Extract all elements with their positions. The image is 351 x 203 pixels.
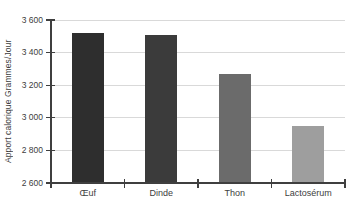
plot-area: 2 6002 8003 0003 2003 4003 600ŒufDindeTh… <box>0 0 351 203</box>
calorie-bar-chart: Apport calorique Grammes/Jour 2 6002 800… <box>0 0 351 203</box>
x-category-label: Lactosérum <box>272 188 344 198</box>
bar <box>292 126 324 183</box>
x-category-label: Œuf <box>52 188 124 198</box>
bar <box>219 74 251 183</box>
x-category-label: Thon <box>199 188 271 198</box>
x-category-label: Dinde <box>125 188 197 198</box>
x-axis-line <box>50 182 346 184</box>
y-axis-line <box>50 19 52 184</box>
y-tick-label: 2 600 <box>5 178 43 189</box>
bar <box>145 35 177 183</box>
gridline <box>51 20 345 21</box>
y-tick-label: 3 400 <box>5 47 43 58</box>
y-tick-label: 3 000 <box>5 112 43 123</box>
bar <box>72 33 104 183</box>
y-tick-label: 2 800 <box>5 145 43 156</box>
y-tick-label: 3 200 <box>5 80 43 91</box>
y-tick-label: 3 600 <box>5 15 43 26</box>
